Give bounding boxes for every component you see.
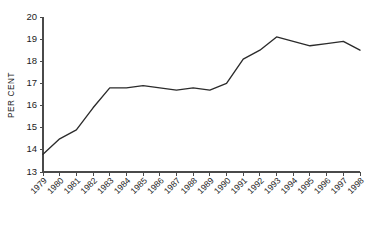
x-tick-label: 1989 xyxy=(195,175,216,196)
x-tick-label: 1992 xyxy=(245,175,266,196)
y-axis: 1314151617181920 xyxy=(26,11,43,177)
x-tick-label: 1983 xyxy=(95,175,116,196)
x-tick-label: 1985 xyxy=(128,175,149,196)
y-tick-label: 13 xyxy=(26,166,37,177)
x-tick-label: 1979 xyxy=(28,175,49,196)
y-tick-label: 18 xyxy=(26,55,37,66)
y-tick-label: 16 xyxy=(26,99,37,110)
chart-page: 1314151617181920 19791980198119821983198… xyxy=(0,0,375,226)
x-tick-label: 1981 xyxy=(62,175,83,196)
x-tick-label: 1984 xyxy=(112,175,133,196)
x-tick-label: 1987 xyxy=(162,175,183,196)
y-tick-label: 19 xyxy=(26,33,37,44)
y-tick-label: 15 xyxy=(26,121,37,132)
x-tick-label: 1996 xyxy=(312,175,333,196)
x-tick-label: 1990 xyxy=(212,175,233,196)
x-tick-label: 1991 xyxy=(229,175,250,196)
y-tick-label: 20 xyxy=(26,11,37,22)
x-tick-label: 1986 xyxy=(145,175,166,196)
x-tick-label: 1998 xyxy=(345,175,366,196)
x-tick-label: 1988 xyxy=(178,175,199,196)
data-series xyxy=(43,37,360,154)
line-chart: 1314151617181920 19791980198119821983198… xyxy=(0,0,375,226)
x-tick-label: 1982 xyxy=(78,175,99,196)
x-tick-label: 1995 xyxy=(295,175,316,196)
series-line-per-cent xyxy=(43,37,360,154)
y-axis-title: PER CENT xyxy=(7,72,16,118)
x-tick-label: 1994 xyxy=(279,175,300,196)
y-tick-label: 17 xyxy=(26,77,37,88)
x-tick-label: 1993 xyxy=(262,175,283,196)
x-tick-label: 1997 xyxy=(329,175,350,196)
x-axis: 1979198019811982198319841985198619871988… xyxy=(28,172,366,196)
y-tick-label: 14 xyxy=(26,143,37,154)
x-tick-label: 1980 xyxy=(45,175,66,196)
